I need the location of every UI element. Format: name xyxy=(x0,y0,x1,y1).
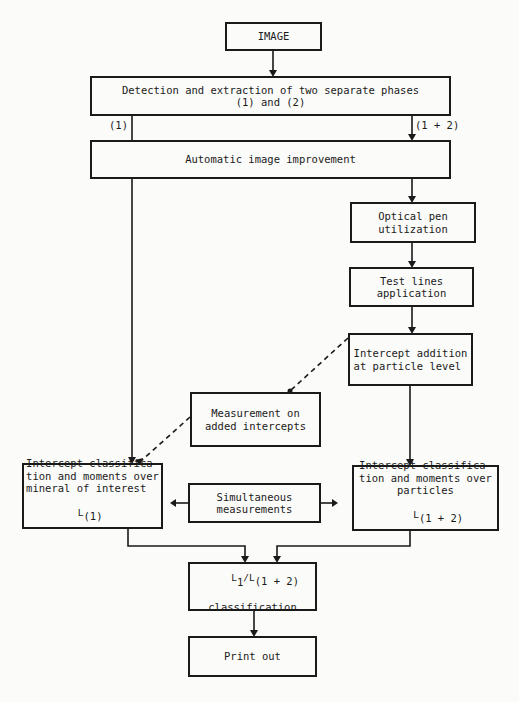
image-label: IMAGE xyxy=(258,30,290,43)
left-classification-label: Intercept classifica- tion and moments o… xyxy=(26,457,159,495)
left-branch-label: (1) xyxy=(109,119,128,131)
ratio-classification-node: L1/L(1 + 2) classification xyxy=(188,562,317,611)
simultaneous-label: Simultaneous measurements xyxy=(217,491,293,516)
right-classification-symbol: L(1 + 2) xyxy=(388,497,463,538)
simultaneous-node: Simultaneous measurements xyxy=(188,483,321,523)
intercept-addition-label: Intercept addition at particle level xyxy=(354,347,468,372)
left-classification-node: Intercept classifica- tion and moments o… xyxy=(22,463,163,529)
right-classification-node: Intercept classifica- tion and moments o… xyxy=(352,465,499,531)
measurement-label: Measurement on added intercepts xyxy=(205,407,306,432)
left-classification-symbol: L(1) xyxy=(53,495,103,536)
print-out-node: Print out xyxy=(188,636,317,677)
auto-improvement-node: Automatic image improvement xyxy=(90,140,451,179)
optical-pen-label: Optical pen utilization xyxy=(378,210,448,235)
intercept-addition-node: Intercept addition at particle level xyxy=(348,333,473,386)
right-branch-label: (1 + 2) xyxy=(415,119,459,131)
ratio-symbol: L1/L(1 + 2) xyxy=(206,560,299,602)
ratio-label: classification xyxy=(208,601,297,614)
detection-label-line2: (1) and (2) xyxy=(236,96,306,109)
measurement-node: Measurement on added intercepts xyxy=(190,392,321,447)
image-node: IMAGE xyxy=(225,22,322,51)
auto-improvement-label: Automatic image improvement xyxy=(185,153,356,166)
detection-node: Detection and extraction of two separate… xyxy=(90,76,451,116)
test-lines-node: Test lines application xyxy=(349,267,474,307)
detection-label-line1: Detection and extraction of two separate… xyxy=(122,84,419,97)
test-lines-label: Test lines application xyxy=(377,275,447,300)
print-out-label: Print out xyxy=(224,650,281,663)
right-classification-label: Intercept classifica- tion and moments o… xyxy=(359,459,492,497)
optical-pen-node: Optical pen utilization xyxy=(350,202,476,243)
